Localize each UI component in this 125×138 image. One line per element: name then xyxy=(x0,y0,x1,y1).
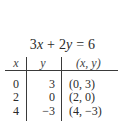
header-xy: (x, y) xyxy=(76,57,101,69)
table-cell-x: 4 xyxy=(10,105,22,117)
constant-6: 6 xyxy=(88,37,95,52)
coefficient-2: 2 xyxy=(59,37,66,52)
table-cell-xy: (0, 3) xyxy=(69,78,95,90)
table-cell-xy: (2, 0) xyxy=(69,91,95,103)
table-cell-xy: (4, −3) xyxy=(69,105,102,117)
table-cell-y: 3 xyxy=(30,78,55,90)
coefficient-3: 3 xyxy=(30,37,37,52)
table-cell-x: 2 xyxy=(10,91,22,103)
header-y: y xyxy=(38,57,48,69)
column-divider-2 xyxy=(61,57,62,121)
table-cell-y: 0 xyxy=(30,91,55,103)
equals-sign: = xyxy=(73,37,89,52)
table-cell-x: 0 xyxy=(10,78,22,90)
table-cell-y: −3 xyxy=(30,105,55,117)
plus-operator: + xyxy=(43,37,59,52)
equation-title: 3x + 2y = 6 xyxy=(0,38,125,52)
column-divider-1 xyxy=(26,57,27,121)
header-x: x xyxy=(10,57,22,69)
